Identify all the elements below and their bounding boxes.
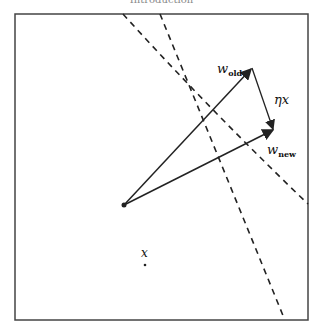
decision-boundary-line (160, 14, 284, 318)
origin-point (122, 203, 127, 208)
w-old-label: wold (217, 61, 243, 78)
perceptron-update-diagram: wold ηx wnew x (0, 0, 323, 334)
x-label: x (141, 246, 148, 260)
eta-x-arrow (252, 68, 273, 129)
eta-x-label: ηx (274, 92, 290, 107)
x-point (144, 264, 147, 267)
w-new-arrow (124, 130, 273, 205)
plot-frame (15, 14, 308, 320)
w-old-arrow (124, 69, 251, 205)
w-new-label: wnew (267, 142, 297, 159)
